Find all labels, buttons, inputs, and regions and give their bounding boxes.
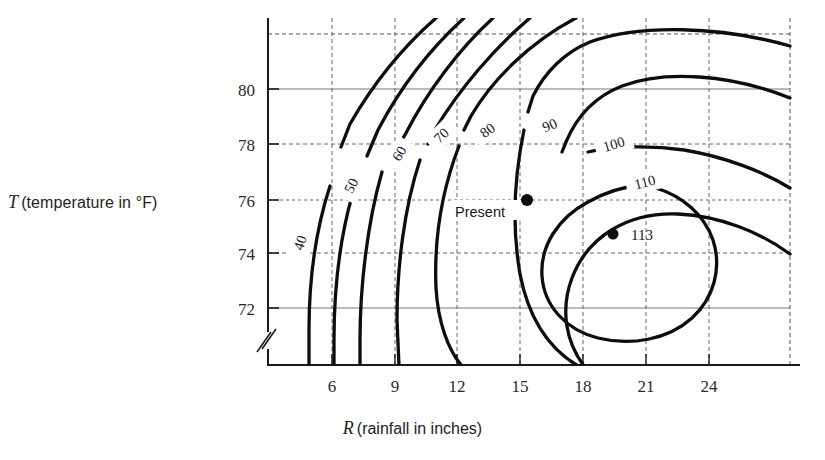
xtick-label-9: 9 xyxy=(391,377,400,396)
xtick-label-12: 12 xyxy=(449,377,466,396)
ytick-label-74: 74 xyxy=(238,245,256,264)
contour-plot-figure: 80 78 76 74 72 6 9 12 15 18 21 24 xyxy=(0,0,825,460)
ytick-label-76: 76 xyxy=(238,192,255,211)
ytick-label-72: 72 xyxy=(238,300,255,319)
y-axis-title-text: (temperature in °F) xyxy=(21,194,157,211)
x-axis-title-text: (rainfall in inches) xyxy=(357,420,482,437)
maximum-point-marker xyxy=(608,229,619,240)
xtick-label-6: 6 xyxy=(328,377,337,396)
x-axis-title-variable: R xyxy=(343,418,357,438)
ytick-label-78: 78 xyxy=(238,136,255,155)
present-point-marker xyxy=(521,194,533,206)
xtick-label-15: 15 xyxy=(512,377,529,396)
y-axis-title-variable: T xyxy=(8,192,21,212)
y-axis-title: T(temperature in °F) xyxy=(8,192,198,213)
xtick-label-24: 24 xyxy=(701,377,719,396)
ytick-label-80: 80 xyxy=(238,81,255,100)
xtick-label-18: 18 xyxy=(575,377,592,396)
present-label: Present xyxy=(455,204,505,220)
xtick-label-21: 21 xyxy=(638,377,655,396)
x-axis-title: R(rainfall in inches) xyxy=(0,418,825,439)
maximum-value-label: 113 xyxy=(631,227,653,243)
